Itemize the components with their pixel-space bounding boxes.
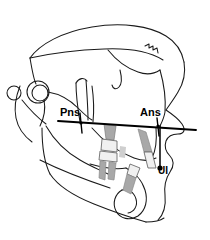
- landmark-label-ui: UI: [158, 166, 168, 176]
- orbital-ridge-line: [30, 49, 163, 60]
- ramus-posterior-border: [42, 128, 50, 174]
- upper-molar-root: [104, 124, 116, 140]
- porion-circle: [27, 81, 49, 103]
- upper-incisor-crown: [144, 152, 156, 168]
- landmark-label-ans: Ans: [140, 107, 161, 118]
- anterior-cranial-base: [30, 58, 36, 84]
- upper-molar-crown: [101, 139, 117, 152]
- lower-molar-root-distal: [108, 162, 116, 180]
- upper-molar-tooth: [101, 124, 117, 152]
- landmark-label-pns: Pns: [60, 107, 80, 118]
- maxilla-anterior-surface: [160, 70, 165, 126]
- pterygoid-plate-outline-2: [86, 80, 88, 120]
- palatal-plane-line: [58, 121, 196, 130]
- chin-lower-ramp: [146, 218, 164, 222]
- upper-incisor-root: [138, 129, 152, 152]
- orbit-zygomatic-outline: [108, 50, 160, 74]
- lower-molar-crown: [99, 151, 117, 162]
- pterygomaxillary-arch: [76, 79, 87, 83]
- teeth-group: [99, 124, 156, 194]
- measurement-overlay-group: [58, 113, 196, 171]
- lower-molar-root-mesial: [99, 161, 106, 180]
- ans-landmark-point: [156, 124, 159, 127]
- pterygomaxillary-hook: [112, 70, 121, 89]
- lower-incisor-root: [123, 174, 136, 194]
- lower-molar-tooth: [99, 151, 117, 180]
- sella-turcica-circle: [32, 85, 48, 101]
- nasal-bone-notch: [145, 44, 158, 53]
- cranial-base-group: [7, 58, 92, 142]
- cephalometric-figure: Pns Ans UI: [0, 0, 210, 240]
- occipital-contour: [15, 86, 32, 142]
- pns-landmark-point: [79, 121, 82, 124]
- upper-incisor-tooth: [138, 129, 156, 168]
- cephalometric-tracing-drawing: [0, 0, 210, 240]
- posterior-tooth-silhouette: [119, 146, 126, 158]
- cranial-vault-outline: [30, 25, 184, 62]
- forehead-glabella-contour: [166, 62, 185, 110]
- maxillary-tuberosity: [92, 86, 94, 122]
- cranial-outline-group: [30, 25, 185, 220]
